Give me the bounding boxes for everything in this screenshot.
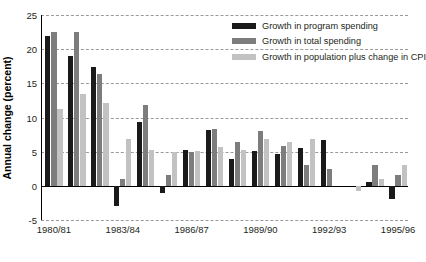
gridline [41, 15, 408, 16]
bar [195, 151, 200, 186]
bar [356, 186, 361, 191]
bar [366, 182, 371, 186]
bar [206, 130, 211, 185]
bar [264, 139, 269, 185]
bar [137, 122, 142, 186]
legend-label: Growth in program spending [262, 21, 378, 31]
bar [235, 142, 240, 186]
bar [229, 159, 234, 186]
bar [80, 94, 85, 186]
legend-item: Growth in program spending [232, 19, 426, 32]
bar [298, 148, 303, 186]
bar [252, 151, 257, 186]
y-axis-line [41, 15, 42, 220]
bar [258, 131, 263, 186]
bar [327, 169, 332, 186]
y-axis-tick-label: -5 [29, 215, 37, 226]
bar [189, 152, 194, 185]
bar [45, 36, 50, 186]
gridline [41, 220, 408, 221]
legend: Growth in program spendingGrowth in tota… [232, 19, 426, 66]
bar [51, 32, 56, 186]
bar [281, 146, 286, 186]
bar [149, 150, 154, 186]
bar [389, 186, 394, 200]
bar [379, 179, 384, 186]
bar [275, 154, 280, 185]
bar [304, 165, 309, 186]
bar [126, 139, 131, 185]
bar [183, 150, 188, 186]
bar [212, 129, 217, 186]
bar [172, 152, 177, 185]
bar [143, 105, 148, 186]
bar [402, 165, 407, 186]
bar [287, 142, 292, 186]
bar [166, 175, 171, 186]
bar [160, 186, 165, 194]
x-axis-tick-label: 1989/90 [243, 224, 277, 235]
legend-item: Growth in total spending [232, 35, 426, 48]
legend-swatch-icon [232, 54, 256, 60]
y-axis-tick-label: 20 [26, 44, 37, 55]
legend-swatch-icon [232, 38, 256, 44]
y-axis-tick-label: 0 [32, 180, 37, 191]
y-axis-title-text: Annual change (percent) [1, 56, 13, 179]
bar [372, 165, 377, 186]
legend-swatch-icon [232, 23, 256, 29]
zero-axis-line [41, 186, 408, 187]
bar [68, 56, 73, 186]
y-axis-tick-label: 5 [32, 146, 37, 157]
legend-item: Growth in population plus change in CPI [232, 50, 426, 63]
bar [120, 179, 125, 186]
y-axis-tick-label: 10 [26, 112, 37, 123]
legend-label: Growth in total spending [262, 36, 361, 46]
bar [218, 147, 223, 186]
bar [114, 186, 119, 207]
y-axis-tick-label: 15 [26, 78, 37, 89]
bar [241, 150, 246, 186]
x-axis-tick-label: 1986/87 [174, 224, 208, 235]
x-axis-tick-label: 1980/81 [37, 224, 71, 235]
legend-label: Growth in population plus change in CPI [262, 52, 426, 62]
x-axis-tick-label: 1995/96 [381, 224, 415, 235]
bar [310, 139, 315, 185]
bar [91, 67, 96, 186]
y-axis-tick-label: 25 [26, 10, 37, 21]
bar [97, 74, 102, 186]
x-axis-tick-label: 1983/84 [106, 224, 140, 235]
x-axis-tick-label: 1992/93 [312, 224, 346, 235]
y-axis-title: Annual change (percent) [0, 10, 14, 225]
bar [74, 32, 79, 186]
bar [321, 140, 326, 186]
bar [57, 109, 62, 186]
bar [103, 103, 108, 186]
bar [395, 175, 400, 186]
